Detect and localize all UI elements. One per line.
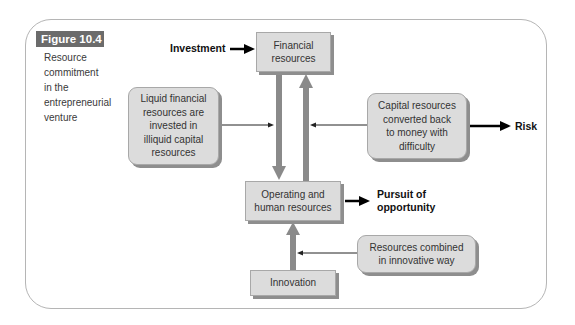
pursuit-of-opportunity-label: Pursuit of opportunity [377, 188, 435, 214]
down-arrow-icon [272, 73, 286, 180]
box-line: Operating and [254, 188, 331, 202]
combined-connector-arrow-icon [297, 251, 357, 256]
liquid-resources-box: Liquid financial resources are invested … [128, 87, 219, 165]
investment-arrow-icon [230, 44, 255, 54]
risk-arrow-icon [470, 121, 511, 131]
box-line: Capital resources [378, 99, 456, 113]
investment-label: Investment [170, 42, 225, 55]
box-line: Liquid financial [140, 92, 206, 106]
resources-combined-box: Resources combined in innovative way [357, 235, 476, 273]
box-line: resources are [140, 106, 206, 120]
box-line: resources [140, 146, 206, 160]
box-line: Financial [272, 39, 316, 53]
box-line: difficulty [378, 140, 456, 154]
box-line: human resources [254, 201, 331, 215]
box-line: resources [272, 52, 316, 66]
operating-resources-box: Operating and human resources [245, 181, 341, 221]
box-line: invested in [140, 119, 206, 133]
risk-label: Risk [515, 120, 537, 133]
box-line: to money with [378, 126, 456, 140]
box-line: Resources combined [370, 241, 464, 255]
innovation-up-arrow-icon [286, 222, 300, 271]
up-arrow-icon [299, 74, 313, 181]
pursuit-arrow-icon [345, 196, 370, 206]
box-line: converted back [378, 113, 456, 127]
innovation-box: Innovation [250, 270, 336, 296]
label-line: opportunity [377, 201, 435, 214]
capital-resources-box: Capital resources converted back to mone… [367, 93, 467, 159]
financial-resources-box: Financial resources [256, 32, 331, 72]
label-line: Pursuit of [377, 188, 435, 201]
box-line: illiquid capital [140, 133, 206, 147]
liquid-connector-arrow-icon [219, 123, 274, 128]
capital-connector-arrow-icon [310, 123, 367, 128]
box-line: in innovative way [370, 254, 464, 268]
